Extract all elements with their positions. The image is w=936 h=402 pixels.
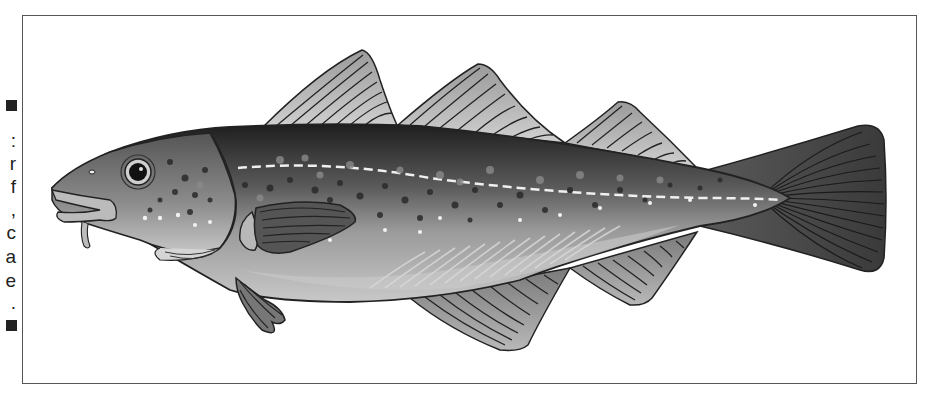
fish-head [52, 133, 235, 252]
barbel [81, 222, 90, 248]
eye [121, 155, 155, 189]
dorsal-fin-1 [262, 50, 397, 128]
cod-illustration [0, 0, 936, 402]
